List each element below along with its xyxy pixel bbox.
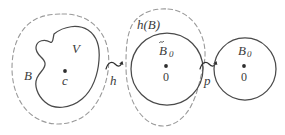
center-point-0-dot-middle: [164, 64, 168, 68]
label-V: V: [72, 41, 82, 56]
region-right: B 0 0: [214, 38, 276, 100]
solid-blob-V: [36, 27, 99, 108]
label-h-of-B: h(B): [137, 17, 160, 32]
region-middle: h(B) B 0 0: [126, 9, 205, 126]
label-B-0-base: B: [238, 43, 246, 58]
label-c: c: [62, 73, 68, 88]
label-B-tilde-subscript: 0: [169, 49, 174, 59]
label-B-tilde-base: B: [159, 43, 167, 58]
label-B-tilde-0: B 0: [159, 42, 174, 59]
math-figure: B V c h h(B) B 0 0: [0, 0, 285, 135]
label-h: h: [110, 73, 117, 88]
figure-canvas: B V c h h(B) B 0 0: [0, 0, 285, 135]
label-B: B: [24, 68, 32, 83]
center-point-0-dot-right: [242, 64, 246, 68]
label-B-0-subscript: 0: [247, 49, 252, 59]
label-zero-right: 0: [241, 70, 247, 84]
label-p: p: [203, 73, 211, 88]
label-zero-middle: 0: [163, 70, 169, 84]
tilde-accent-icon: [160, 42, 164, 43]
region-left: B V c: [12, 14, 109, 124]
label-B-0: B 0: [238, 43, 252, 59]
